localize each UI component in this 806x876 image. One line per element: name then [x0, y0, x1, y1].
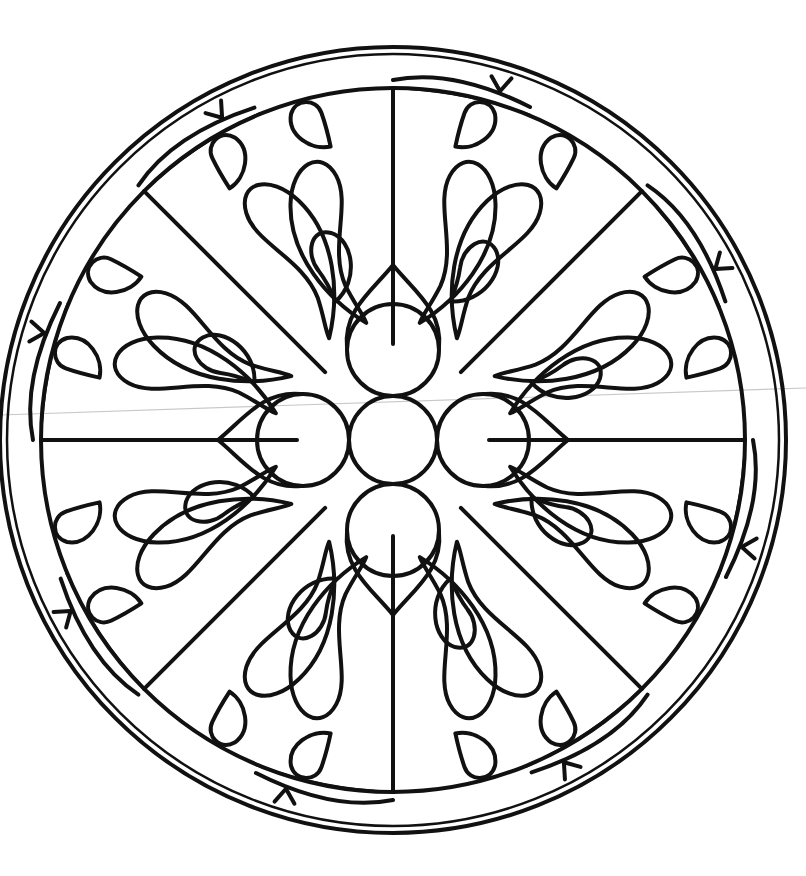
- petal-sectors: [1, 48, 784, 831]
- rose-window-mandala: [0, 0, 806, 876]
- scan-line: [0, 388, 806, 415]
- center-circle: [349, 396, 437, 484]
